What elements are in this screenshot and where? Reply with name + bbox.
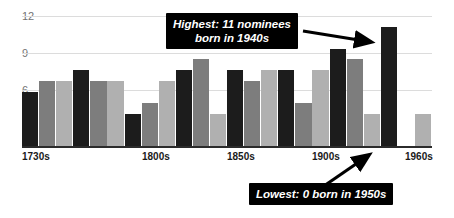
x-axis-label-1730s: 1730s [22, 151, 50, 162]
bar-1730s [22, 92, 38, 146]
x-axis-label-1850s: 1850s [227, 151, 255, 162]
x-axis-label-1960s: 1960s [405, 151, 433, 162]
bar-1900s [312, 70, 328, 146]
bar-1740s [39, 81, 55, 146]
bar-1770s [90, 81, 106, 146]
bar-1860s [244, 81, 260, 146]
bar-1820s [176, 70, 192, 146]
bar-1840s [210, 114, 226, 147]
bar-1760s [73, 70, 89, 146]
x-axis-label-1800s: 1800s [142, 151, 170, 162]
bar-1890s [295, 103, 311, 146]
bar-1880s [278, 70, 294, 146]
bar-1830s [193, 59, 209, 146]
bar-1780s [107, 81, 123, 146]
bar-1910s [330, 49, 346, 147]
x-axis-label-1900s: 1900s [312, 151, 340, 162]
bar-chart: 12 9 6 1730s 1800s 1850s 1900s 1960s Hig… [0, 0, 454, 218]
bar-1790s [125, 114, 141, 147]
bar-1940s [381, 27, 397, 146]
bar-1930s [364, 114, 380, 147]
bar-1750s [56, 81, 72, 146]
bar-1810s [159, 81, 175, 146]
callout-highest: Highest: 11 nominees born in 1940s [166, 13, 298, 49]
bar-1960s [415, 114, 431, 147]
callout-lowest: Lowest: 0 born in 1950s [249, 183, 393, 205]
bar-1920s [347, 59, 363, 146]
bar-1850s [227, 70, 243, 146]
bar-1800s [142, 103, 158, 146]
bar-1870s [261, 70, 277, 146]
x-axis-line [22, 146, 432, 148]
